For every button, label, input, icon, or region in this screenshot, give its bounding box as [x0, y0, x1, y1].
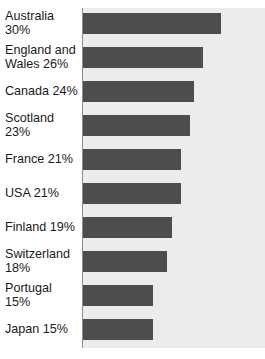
bar [83, 319, 153, 340]
chart-row: Japan 15% [0, 314, 265, 345]
chart-row: Australia 30% [0, 8, 265, 39]
chart-row: Portugal 15% [0, 280, 265, 311]
chart-row: France 21% [0, 144, 265, 175]
bar-label: Portugal 15% [5, 280, 79, 311]
bar-label: USA 21% [5, 178, 79, 209]
bar-label: England and Wales 26% [5, 42, 79, 73]
bar-label: Scotland 23% [5, 110, 79, 141]
horizontal-bar-chart: Australia 30%England and Wales 26%Canada… [0, 0, 265, 359]
bar-label: France 21% [5, 144, 79, 175]
chart-row: USA 21% [0, 178, 265, 209]
bar [83, 251, 167, 272]
bar-label: Japan 15% [5, 314, 79, 345]
bar [83, 115, 190, 136]
chart-row: Finland 19% [0, 212, 265, 243]
bar [83, 149, 181, 170]
bar [83, 217, 172, 238]
chart-row: England and Wales 26% [0, 42, 265, 73]
bar-label: Finland 19% [5, 212, 79, 243]
bar [83, 183, 181, 204]
bar-rows: Australia 30%England and Wales 26%Canada… [0, 8, 265, 348]
bar [83, 81, 194, 102]
bar [83, 47, 203, 68]
chart-row: Scotland 23% [0, 110, 265, 141]
bar [83, 285, 153, 306]
chart-row: Switzerland 18% [0, 246, 265, 277]
bar-label: Switzerland 18% [5, 246, 79, 277]
bar-label: Canada 24% [5, 76, 79, 107]
bar [83, 13, 221, 34]
bar-label: Australia 30% [5, 8, 79, 39]
chart-row: Canada 24% [0, 76, 265, 107]
